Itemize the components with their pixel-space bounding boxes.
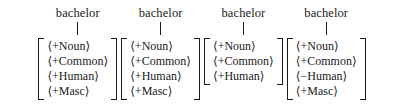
stem-connector xyxy=(77,22,78,35)
feature-matrix: ⟨+Noun⟩ ⟨+Common⟩ ⟨−Human⟩ ⟨+Masc⟩ xyxy=(287,38,366,100)
right-bracket-icon xyxy=(111,38,117,100)
feature-list: ⟨+Noun⟩ ⟨+Common⟩ ⟨+Human⟩ xyxy=(211,38,276,85)
stem-connector xyxy=(243,22,244,35)
right-bracket-icon xyxy=(194,38,200,100)
feature-item: ⟨+Masc⟩ xyxy=(47,84,108,99)
headword-label: bachelor xyxy=(304,6,348,20)
headword-label: bachelor xyxy=(139,6,183,20)
lexical-entry-3: bachelor ⟨+Noun⟩ ⟨+Common⟩ ⟨+Human⟩ xyxy=(204,6,283,85)
feature-item: ⟨+Masc⟩ xyxy=(296,84,357,99)
feature-item: ⟨+Common⟩ xyxy=(130,54,191,69)
feature-item: ⟨+Human⟩ xyxy=(130,69,191,84)
feature-item: ⟨−Human⟩ xyxy=(296,69,357,84)
headword-label: bachelor xyxy=(56,6,100,20)
feature-list: ⟨+Noun⟩ ⟨+Common⟩ ⟨−Human⟩ ⟨+Masc⟩ xyxy=(294,38,359,100)
lexical-entry-4: bachelor ⟨+Noun⟩ ⟨+Common⟩ ⟨−Human⟩ ⟨+Ma… xyxy=(287,6,366,100)
feature-item: ⟨+Masc⟩ xyxy=(130,84,191,99)
feature-item: ⟨+Common⟩ xyxy=(213,54,274,69)
lexical-entry-2: bachelor ⟨+Noun⟩ ⟨+Common⟩ ⟨+Human⟩ ⟨+Ma… xyxy=(121,6,200,100)
feature-item: ⟨+Noun⟩ xyxy=(130,39,191,54)
left-bracket-icon xyxy=(38,38,44,100)
right-bracket-icon xyxy=(360,38,366,100)
left-bracket-icon xyxy=(121,38,127,100)
feature-item: ⟨+Human⟩ xyxy=(213,69,274,84)
left-bracket-icon xyxy=(204,38,210,85)
feature-item: ⟨+Noun⟩ xyxy=(47,39,108,54)
headword-label: bachelor xyxy=(221,6,265,20)
feature-item: ⟨+Common⟩ xyxy=(47,54,108,69)
right-bracket-icon xyxy=(277,38,283,85)
stem-connector xyxy=(160,22,161,35)
feature-matrix-diagram: bachelor ⟨+Noun⟩ ⟨+Common⟩ ⟨+Human⟩ ⟨+Ma… xyxy=(0,0,404,111)
feature-matrix: ⟨+Noun⟩ ⟨+Common⟩ ⟨+Human⟩ xyxy=(204,38,283,85)
feature-item: ⟨+Human⟩ xyxy=(47,69,108,84)
feature-matrix: ⟨+Noun⟩ ⟨+Common⟩ ⟨+Human⟩ ⟨+Masc⟩ xyxy=(121,38,200,100)
feature-item: ⟨+Common⟩ xyxy=(296,54,357,69)
stem-connector xyxy=(326,22,327,35)
left-bracket-icon xyxy=(287,38,293,100)
feature-list: ⟨+Noun⟩ ⟨+Common⟩ ⟨+Human⟩ ⟨+Masc⟩ xyxy=(128,38,193,100)
feature-matrix: ⟨+Noun⟩ ⟨+Common⟩ ⟨+Human⟩ ⟨+Masc⟩ xyxy=(38,38,117,100)
feature-list: ⟨+Noun⟩ ⟨+Common⟩ ⟨+Human⟩ ⟨+Masc⟩ xyxy=(45,38,110,100)
feature-item: ⟨+Noun⟩ xyxy=(296,39,357,54)
lexical-entry-1: bachelor ⟨+Noun⟩ ⟨+Common⟩ ⟨+Human⟩ ⟨+Ma… xyxy=(38,6,117,100)
feature-item: ⟨+Noun⟩ xyxy=(213,39,274,54)
